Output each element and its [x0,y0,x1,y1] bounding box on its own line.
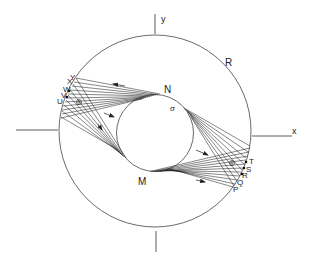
circled-cross-left [76,99,81,104]
right-label-T: T [249,157,254,166]
arrow-left-diag [104,113,114,117]
stress-label-sigma: σ [170,104,175,113]
left-label-W: W [63,85,71,94]
arrow-upper [113,84,125,86]
outer-circle-label-R: R [225,57,232,68]
arrow-right-diag [196,150,208,155]
point-label-N: N [164,84,171,95]
right-label-S: S [246,165,251,174]
inner-circle [117,95,194,172]
x-axis-label: x [292,126,297,136]
y-axis-label: y [161,14,166,24]
left-label-Y: Y [70,73,76,82]
arrow-lower [196,180,205,182]
point-label-M: M [138,176,146,187]
circled-cross-right [229,160,234,165]
left-upper-fan [61,78,160,118]
annulus-diagram: y x [0,0,311,265]
outer-circle [59,35,251,227]
flow-arrows [98,84,208,182]
